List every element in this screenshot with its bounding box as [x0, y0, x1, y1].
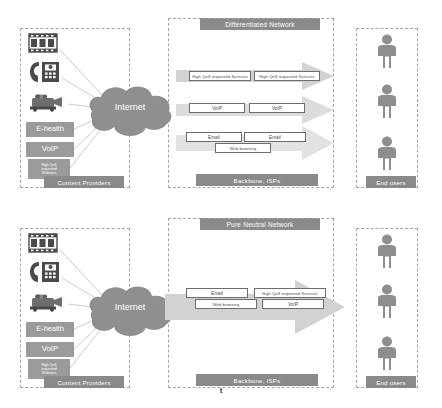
caption-backbone-isps-2: Backbone, ISPs: [196, 374, 318, 386]
caption-content-providers: Content Providers: [44, 176, 124, 188]
flow-box-high-qos-1[interactable]: High QoS requested Services: [189, 71, 251, 81]
caption-end-users: End users: [366, 176, 416, 188]
service-voip[interactable]: VoIP: [26, 142, 74, 157]
service-line-3: Websites: [42, 171, 56, 175]
panel-differentiated-network: Differentiated Network: [0, 4, 442, 200]
service-voip-2[interactable]: VoIP: [26, 342, 74, 357]
end-user-person-3: [376, 136, 398, 170]
film-strip-icon: [28, 232, 58, 254]
service-line-3: Websites: [42, 371, 56, 375]
flow-box-voip-neutral[interactable]: VoIP: [262, 299, 324, 309]
video-camera-icon: [26, 92, 66, 112]
end-user-person-2: [376, 84, 398, 118]
film-strip-icon: [28, 32, 58, 54]
service-e-health-2[interactable]: E-health: [26, 322, 74, 337]
flow-box-web-browsing[interactable]: Web browsing: [215, 143, 271, 153]
flow-box-email-1[interactable]: Email: [186, 132, 242, 142]
fax-phone-icon: [28, 260, 60, 284]
flow-box-email[interactable]: Email: [186, 288, 248, 298]
internet-cloud-label: Internet: [84, 102, 176, 112]
flow-box-voip-1[interactable]: VoIP: [189, 103, 245, 113]
end-user-person-1: [376, 34, 398, 68]
fax-phone-icon: [28, 60, 60, 84]
flow-box-voip-2[interactable]: VoIP: [249, 103, 305, 113]
end-user-person-4: [376, 234, 398, 268]
video-camera-icon: [26, 292, 66, 312]
end-user-person-5: [376, 284, 398, 318]
panel-pure-neutral-network: Pure Neutral Network: [0, 204, 442, 400]
time-axis-label: t: [0, 386, 442, 395]
end-user-person-6: [376, 336, 398, 370]
flow-box-email-2[interactable]: Email: [244, 132, 306, 142]
internet-cloud-label-2: Internet: [84, 302, 176, 312]
service-e-health[interactable]: E-health: [26, 122, 74, 137]
caption-backbone-isps: Backbone, ISPs: [196, 174, 318, 186]
flow-box-web-browsing-2[interactable]: Web browsing: [195, 299, 257, 309]
flow-box-high-qos-2[interactable]: High QoS requested Services: [254, 71, 320, 81]
flow-box-high-qos[interactable]: High QoS requested Services: [254, 288, 326, 298]
